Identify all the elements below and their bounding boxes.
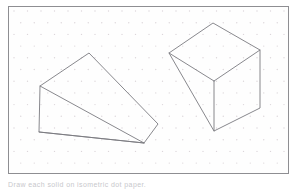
triangular-prism-wedge-edge-1 xyxy=(39,132,144,143)
triangular-prism-wedge-edge-0 xyxy=(40,86,144,143)
isometric-dot-paper-worksheet xyxy=(8,6,289,174)
worksheet-caption: Draw each solid on isometric dot paper. xyxy=(8,180,289,190)
triangular-prism-wedge xyxy=(39,53,158,143)
page-root: Draw each solid on isometric dot paper. xyxy=(0,0,298,190)
rectangular-prism-cube-outline xyxy=(169,23,260,131)
rectangular-prism-cube-edge-1 xyxy=(214,50,260,81)
rectangular-prism-cube-edge-0 xyxy=(169,53,214,81)
triangular-prism-wedge-outline xyxy=(39,53,158,143)
solid-figures-layer xyxy=(9,7,288,173)
solid-figures-svg xyxy=(9,7,289,174)
rectangular-prism-cube xyxy=(169,23,260,131)
